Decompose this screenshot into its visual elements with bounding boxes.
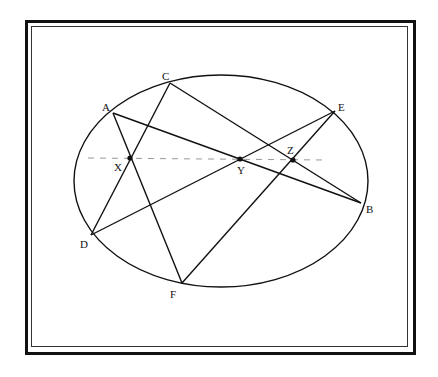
- point-Y: [237, 156, 242, 161]
- label-B: B: [366, 203, 373, 215]
- label-Y: Y: [237, 164, 245, 176]
- label-C: C: [162, 70, 169, 82]
- label-F: F: [170, 288, 176, 300]
- segment-CB: [170, 83, 361, 203]
- label-A: A: [102, 101, 110, 113]
- point-labels: A B C D E F X Y Z: [80, 70, 373, 300]
- pascal-diagram: A B C D E F X Y Z: [0, 0, 438, 377]
- label-D: D: [80, 238, 88, 250]
- label-Z: Z: [287, 144, 294, 156]
- conic-ellipse: [74, 75, 368, 287]
- point-X: [127, 155, 132, 160]
- point-Z: [290, 157, 295, 162]
- label-E: E: [338, 101, 345, 113]
- label-X: X: [114, 161, 122, 173]
- segment-DE: [91, 111, 335, 235]
- segment-AF: [113, 113, 182, 283]
- segment-AB: [113, 113, 361, 203]
- hexagon-segments: [91, 83, 361, 283]
- segment-EF: [182, 111, 335, 283]
